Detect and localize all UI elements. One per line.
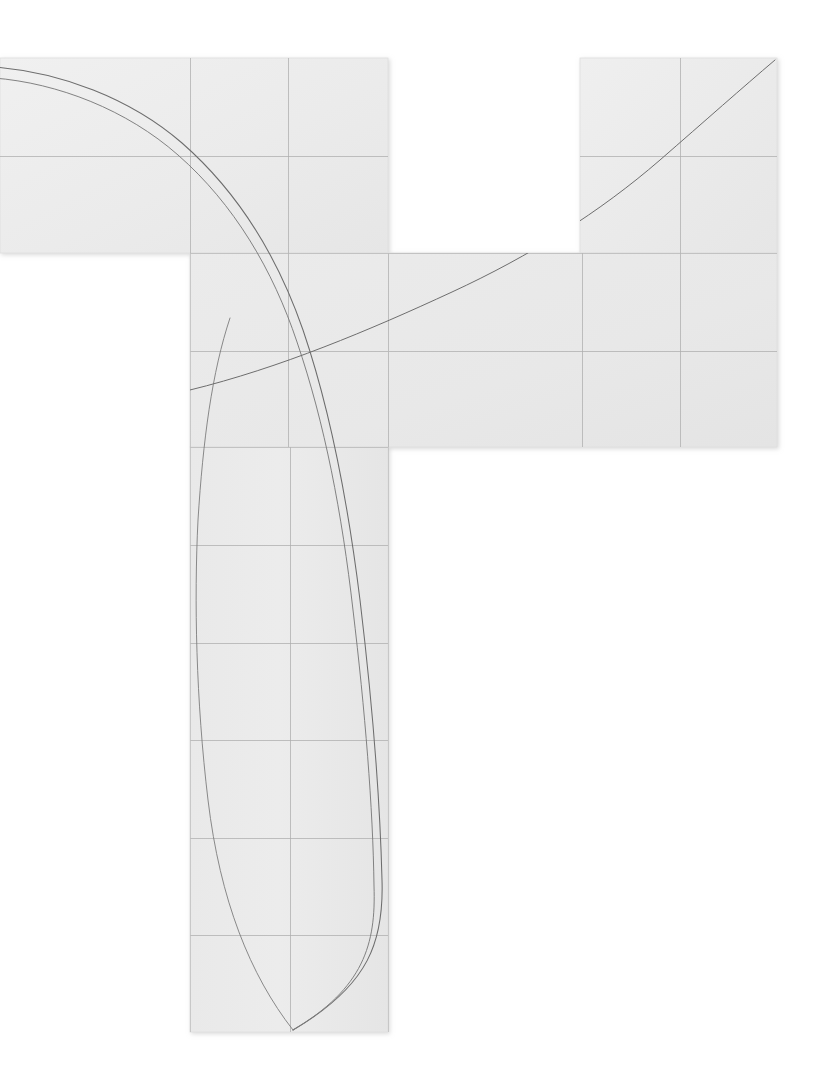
figure-canvas [0,0,825,1076]
paper-panels [0,58,777,1032]
panel-vertical-column [190,447,388,1032]
panel-top-right-band [580,58,777,253]
panel-middle-band [190,253,777,447]
panel-top-left-band [0,58,388,253]
folded-grid-illustration [0,0,825,1076]
